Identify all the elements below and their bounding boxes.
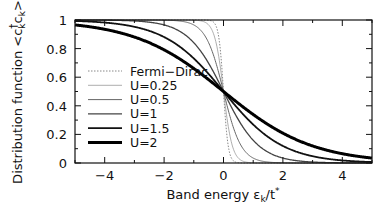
legend-label: U=2 <box>130 135 158 150</box>
y-tick-label: 0.6 <box>46 70 67 85</box>
x-tick-label: −4 <box>95 168 114 183</box>
legend-label: U=0.25 <box>130 78 177 93</box>
curve-5 <box>75 25 372 158</box>
legend: Fermi−DiracU=0.25U=0.5U=1U=1.5U=2 <box>88 64 208 151</box>
y-tick-label: 0.4 <box>46 99 67 114</box>
x-axis-label: Band energy εk/t* <box>166 186 280 204</box>
x-tick-label: −2 <box>155 168 174 183</box>
legend-label: U=1.5 <box>130 121 170 136</box>
legend-label: Fermi−Dirac <box>130 64 208 79</box>
legend-label: U=1 <box>130 106 158 121</box>
y-tick-label: 0 <box>59 156 67 171</box>
legend-label: U=0.5 <box>130 92 170 107</box>
x-tick-label: 0 <box>219 168 227 183</box>
y-tick-label: 0.2 <box>46 127 67 142</box>
distribution-chart: −4−202400.20.40.60.81 Fermi−DiracU=0.25U… <box>0 0 379 217</box>
y-tick-label: 1 <box>59 13 67 28</box>
y-axis-label: Distribution function <c†kck> <box>8 0 27 184</box>
y-tick-label: 0.8 <box>46 42 67 57</box>
x-tick-label: 4 <box>338 168 346 183</box>
x-tick-label: 2 <box>279 168 287 183</box>
